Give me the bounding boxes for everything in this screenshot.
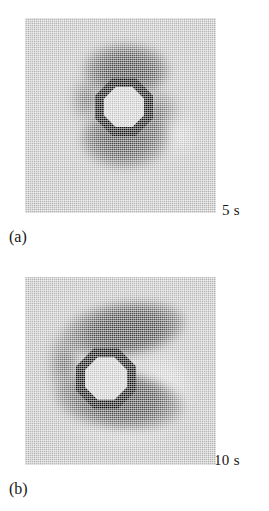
figure-root: 5 s (a) 10 s (b) — [0, 0, 269, 511]
panel-b-caption: (b) — [9, 481, 28, 497]
panel-b-ring-core — [85, 357, 127, 400]
panel-a-caption: (a) — [9, 229, 27, 245]
image-panel-a — [25, 18, 216, 213]
panel-a-ring-core — [104, 87, 145, 128]
panel-b-time-label: 10 s — [214, 453, 240, 468]
image-panel-b — [25, 277, 216, 465]
panel-a-time-label: 5 s — [222, 203, 240, 218]
